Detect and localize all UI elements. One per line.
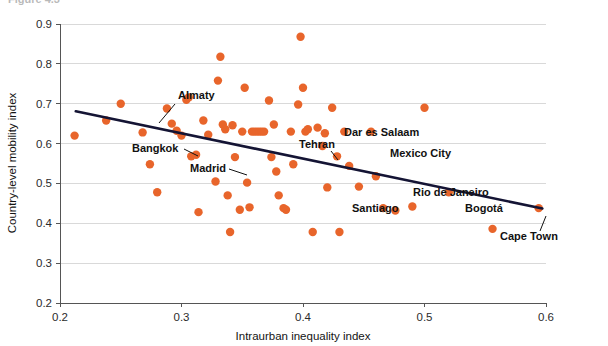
data-point [236,206,244,214]
data-point [153,188,161,196]
y-tick-label: 0.9 [36,18,52,30]
annotation-leader-line [229,169,247,175]
annotation-label: Dar es Salaam [344,126,419,138]
data-point [408,202,416,210]
x-tick-label: 0.3 [174,311,190,323]
data-point [70,131,78,139]
data-point [270,120,278,128]
data-point [289,160,297,168]
scatter-plot: 0.20.30.40.50.60.70.80.9 0.20.30.40.50.6… [0,0,608,346]
data-point [226,228,234,236]
data-point [420,104,428,112]
annotation-label: Tehran [299,138,335,150]
annotation-label: Almaty [178,89,216,101]
annotation-label: Santiago [352,202,399,214]
data-point [355,182,363,190]
data-point [214,76,222,84]
annotation-label: Cape Town [500,230,558,242]
data-point [260,127,268,135]
data-point [296,33,304,41]
data-point [228,121,236,129]
data-point [287,127,295,135]
axes-group [56,24,546,307]
annotation-label: Rio de Janeiro [413,186,489,198]
annotation-label: Bangkok [132,142,179,154]
data-point [245,203,253,211]
data-point [265,96,273,104]
data-point [216,52,224,60]
data-point [304,125,312,133]
annotation-label: Mexico City [390,147,452,159]
data-point [282,206,290,214]
data-point [328,104,336,112]
y-tick-label: 0.4 [36,217,53,229]
y-tick-labels-group: 0.20.30.40.50.60.70.80.9 [36,18,53,309]
x-axis-title: Intraurban inequality index [236,330,371,342]
data-point [199,116,207,124]
y-tick-label: 0.6 [36,138,52,150]
x-tick-label: 0.6 [538,311,554,323]
x-tick-label: 0.2 [52,311,68,323]
x-tick-label: 0.4 [295,311,312,323]
data-point [323,183,331,191]
data-point [272,167,280,175]
y-tick-label: 0.2 [36,297,52,309]
x-tick-label: 0.5 [417,311,433,323]
y-tick-label: 0.8 [36,58,52,70]
data-point [168,119,176,127]
data-point [335,228,343,236]
y-tick-label: 0.3 [36,257,52,269]
annotation-label: Bogotá [465,202,504,214]
data-point [163,104,171,112]
annotation-label: Madrid [190,162,226,174]
y-axis-title: Country-level mobility index [6,92,18,233]
data-point [267,153,275,161]
y-tick-label: 0.7 [36,98,52,110]
data-point [194,208,202,216]
chart-figure: Figure 4.3 0.20.30.40.50.60.70.80.9 0.20… [0,0,608,346]
data-point [211,177,219,185]
data-point [117,100,125,108]
data-point [294,100,302,108]
data-point [321,129,329,137]
data-point [313,123,321,131]
data-point [275,191,283,199]
x-tick-labels-group: 0.20.30.40.50.6 [52,311,554,323]
data-point [221,125,229,133]
y-tick-label: 0.5 [36,177,52,189]
data-point [231,153,239,161]
data-point [243,178,251,186]
data-point [238,127,246,135]
data-point [223,191,231,199]
data-point [138,128,146,136]
data-point [309,228,317,236]
data-point [146,160,154,168]
data-point [299,84,307,92]
data-point [488,225,496,233]
data-point [240,84,248,92]
